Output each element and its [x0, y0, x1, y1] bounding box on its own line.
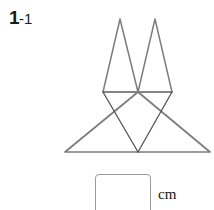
right-flap-triangle: [138, 19, 172, 92]
worksheet-page: 1-1 cm: [0, 0, 214, 210]
answer-unit-label: cm: [158, 187, 176, 202]
inner-triangle-right-edge: [138, 92, 172, 152]
answer-input-box[interactable]: [95, 174, 151, 210]
answer-row: cm: [95, 174, 176, 210]
triangle-net-diagram: [0, 0, 214, 170]
large-outer-triangle: [65, 92, 210, 152]
inner-triangle-left-edge: [103, 92, 138, 152]
left-flap-triangle: [103, 19, 138, 92]
